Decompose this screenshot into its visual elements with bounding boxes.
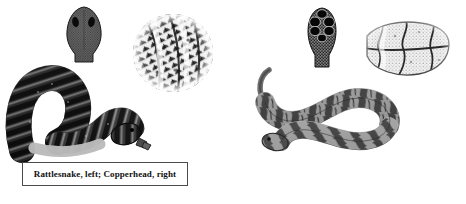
- panel-copperhead: [233, 0, 466, 204]
- rattlesnake-body: [8, 62, 158, 154]
- rattlesnake-head-dorsal: [62, 4, 106, 66]
- illustration-figure: Rattlesnake, left; Copperhead, right: [0, 0, 466, 204]
- caption-text: Rattlesnake, left; Copperhead, right: [34, 169, 176, 179]
- panel-rattlesnake: Rattlesnake, left; Copperhead, right: [0, 0, 233, 204]
- caption-box: Rattlesnake, left; Copperhead, right: [22, 162, 188, 186]
- copperhead-body: [255, 58, 415, 154]
- rattlesnake-rattle: [136, 138, 151, 150]
